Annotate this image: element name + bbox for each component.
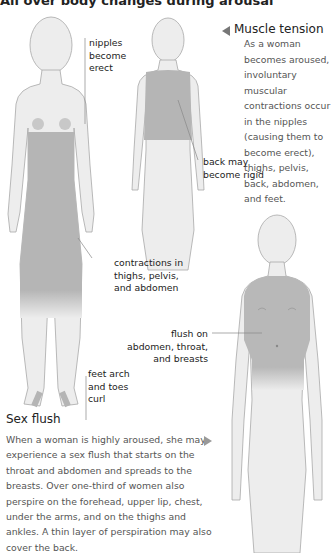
label-feet: feet archand toescurl <box>88 368 130 406</box>
label-nipples: nipplesbecomeerect <box>89 37 126 75</box>
sex-flush-marker-icon <box>204 436 212 446</box>
sex-flush-heading: Sex flush <box>6 412 61 426</box>
label-back: back maybecome rigid <box>203 156 264 181</box>
sex-flush-body: When a woman is highly aroused, she may … <box>6 432 216 553</box>
nipple-right <box>59 118 71 130</box>
nipple-left <box>32 118 44 130</box>
label-flush: flush onabdomen, throat,and breasts <box>124 328 208 366</box>
muscle-tension-marker-icon <box>222 26 230 36</box>
back-figure <box>132 18 204 270</box>
front-highlight <box>20 132 82 318</box>
muscle-tension-heading: Muscle tension <box>234 22 324 36</box>
back-highlight <box>144 70 192 140</box>
label-contractions: contractions inthighs, pelvis,and abdome… <box>114 257 183 295</box>
